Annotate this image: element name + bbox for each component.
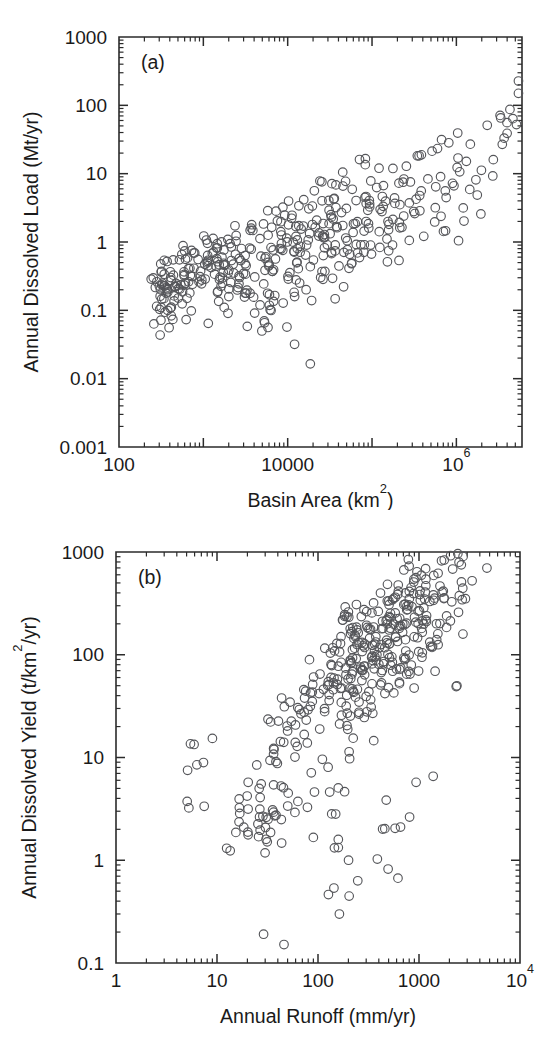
data-point xyxy=(395,256,404,265)
data-point xyxy=(250,309,259,318)
data-point xyxy=(259,220,268,229)
data-point xyxy=(208,734,217,743)
data-point xyxy=(412,778,421,787)
data-point xyxy=(290,340,299,349)
data-point xyxy=(466,140,475,149)
data-point xyxy=(399,212,408,221)
data-point xyxy=(394,581,403,590)
data-point xyxy=(235,809,244,818)
data-point xyxy=(345,892,354,901)
data-point xyxy=(473,191,482,200)
data-point xyxy=(402,162,411,171)
data-point xyxy=(291,753,300,762)
data-point xyxy=(328,274,337,283)
data-point xyxy=(382,796,391,805)
data-point xyxy=(243,792,252,801)
data-point xyxy=(448,565,457,574)
data-point xyxy=(165,323,174,332)
data-point xyxy=(421,564,430,573)
data-point xyxy=(454,608,463,617)
data-point xyxy=(256,793,265,802)
data-point xyxy=(243,322,252,331)
data-point xyxy=(437,212,446,221)
data-point xyxy=(250,273,259,282)
data-point xyxy=(415,191,424,200)
data-point xyxy=(390,689,399,698)
data-point xyxy=(436,172,445,181)
data-point xyxy=(448,179,457,188)
data-point xyxy=(283,802,292,811)
data-point xyxy=(279,299,288,308)
data-point xyxy=(231,221,240,230)
data-point xyxy=(310,186,319,195)
data-point xyxy=(447,597,456,606)
data-point xyxy=(235,795,244,804)
y-axis-tick-label: 10 xyxy=(86,163,107,184)
data-point xyxy=(454,154,463,163)
data-point xyxy=(405,813,414,822)
data-point xyxy=(349,734,358,743)
x-axis-tick-label: 1 xyxy=(111,970,122,991)
y-axis-title: Annual Dissolved Load (Mt/yr) xyxy=(20,111,42,372)
data-point xyxy=(299,195,308,204)
data-point xyxy=(182,315,191,324)
data-point xyxy=(454,236,463,245)
data-point xyxy=(237,244,246,253)
data-point xyxy=(462,157,471,166)
data-point xyxy=(483,564,492,573)
data-point xyxy=(465,185,474,194)
data-point xyxy=(389,164,398,173)
data-point xyxy=(373,855,382,864)
data-point xyxy=(244,778,253,787)
data-point xyxy=(460,217,469,226)
data-point xyxy=(477,210,486,219)
data-point xyxy=(295,202,304,211)
data-point xyxy=(375,164,384,173)
data-point xyxy=(330,884,339,893)
y-axis-title: Annual Dissolved Yield (t/km2/yr) xyxy=(10,616,41,899)
data-point xyxy=(401,635,410,644)
data-point xyxy=(361,154,370,163)
data-point xyxy=(383,258,392,267)
data-point xyxy=(307,769,316,778)
data-point xyxy=(256,301,265,310)
data-point xyxy=(316,273,325,282)
data-point xyxy=(283,727,292,736)
data-point xyxy=(267,243,276,252)
data-point xyxy=(315,725,324,734)
data-point xyxy=(283,323,292,332)
data-point xyxy=(506,105,515,114)
data-point xyxy=(429,772,438,781)
data-point xyxy=(374,607,383,616)
scatter-series xyxy=(147,77,523,368)
data-point xyxy=(325,696,334,705)
data-point xyxy=(347,259,356,268)
data-point xyxy=(428,147,437,156)
data-point xyxy=(309,833,318,842)
data-point xyxy=(453,129,462,138)
data-point xyxy=(348,185,357,194)
data-point xyxy=(483,121,492,130)
data-point xyxy=(307,296,316,305)
data-point xyxy=(349,228,358,237)
data-point xyxy=(468,576,477,585)
data-point xyxy=(261,849,270,858)
x-axis-tick-label: 10 xyxy=(206,970,227,991)
data-point xyxy=(272,207,281,216)
data-point xyxy=(394,874,403,883)
data-point xyxy=(344,856,353,865)
data-point xyxy=(160,256,169,265)
data-point xyxy=(378,207,387,216)
data-point xyxy=(325,788,334,797)
data-point xyxy=(369,736,378,745)
data-point xyxy=(459,630,468,639)
data-point xyxy=(339,283,348,292)
data-point xyxy=(179,241,188,250)
data-point xyxy=(489,155,498,164)
data-point xyxy=(321,644,330,653)
data-point xyxy=(455,558,464,567)
data-point xyxy=(277,815,286,824)
data-point xyxy=(204,319,213,328)
data-point xyxy=(256,234,265,243)
data-point xyxy=(324,763,333,772)
